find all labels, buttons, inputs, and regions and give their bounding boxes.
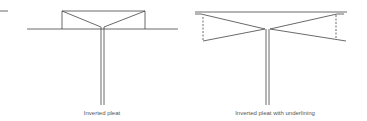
inverted-pleat-drawing	[27, 11, 178, 105]
inverted-pleat-underlining-drawing	[195, 12, 347, 105]
caption-inverted-pleat-underlining: Inverted pleat with underlining	[235, 110, 315, 116]
caption-inverted-pleat: Inverted pleat	[84, 110, 120, 116]
pleat-diagrams	[0, 0, 367, 121]
